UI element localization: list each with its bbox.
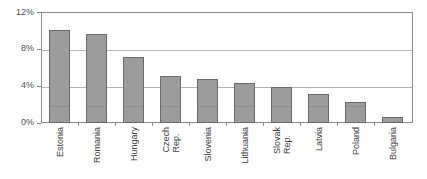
bar-shade-band — [235, 106, 254, 107]
x-label-slovak-rep: Slovak Rep. — [263, 127, 300, 179]
bar-slovenia — [197, 79, 218, 123]
x-label-romania: Romania — [78, 127, 115, 179]
bar-chart: 12% 8% 4% 0% — [0, 0, 427, 179]
bar-slovak-rep — [271, 87, 292, 123]
x-label-poland: Poland — [337, 127, 374, 179]
bar-shade-band — [161, 106, 180, 107]
bar-hungary — [123, 57, 144, 123]
y-axis: 12% 8% 4% 0% — [0, 0, 38, 179]
bars-layer — [41, 12, 413, 123]
x-label-text: Bulgaria — [388, 127, 398, 160]
x-label-text: Estonia — [55, 127, 65, 157]
bar-romania — [86, 34, 107, 123]
bar-shade-band — [50, 106, 69, 107]
x-tick — [300, 123, 301, 126]
x-tick — [189, 123, 190, 126]
x-tick — [115, 123, 116, 126]
x-label-czech-rep: Czech Rep. — [152, 127, 189, 179]
x-tick — [152, 123, 153, 126]
x-label-text: Czech — [161, 127, 171, 153]
x-label-text: Romania — [92, 127, 102, 163]
x-tick — [263, 123, 264, 126]
y-tick-label-4: 4% — [21, 81, 34, 90]
y-tick-label-0: 0% — [21, 118, 34, 127]
x-tick — [78, 123, 79, 126]
x-label-latvia: Latvia — [300, 127, 337, 179]
bar-shade-band — [272, 106, 291, 107]
bar-shade-band — [198, 106, 217, 107]
bar-latvia — [308, 94, 329, 123]
bar-shade-band — [346, 106, 365, 107]
x-tick — [374, 123, 375, 126]
x-axis-labels: Estonia Romania Hungary Czech Rep. Slove… — [41, 127, 413, 179]
bar-lithuania — [234, 83, 255, 123]
bar-shade-band — [87, 106, 106, 107]
x-label-text-line2: Rep. — [171, 127, 181, 153]
x-label-slovenia: Slovenia — [189, 127, 226, 179]
x-label-text: Hungary — [129, 127, 139, 161]
bar-czech-rep — [160, 76, 181, 123]
x-tick — [337, 123, 338, 126]
x-label-text: Slovak — [272, 127, 282, 154]
x-label-text: Latvia — [314, 127, 324, 151]
bar-estonia — [49, 30, 70, 123]
x-label-text: Slovenia — [203, 127, 213, 162]
x-label-lithuania: Lithuania — [226, 127, 263, 179]
y-tick-label-12: 12% — [16, 8, 34, 17]
y-tick-label-8: 8% — [21, 44, 34, 53]
x-tick — [226, 123, 227, 126]
bar-poland — [345, 102, 366, 123]
x-label-text: Lithuania — [240, 127, 250, 164]
x-label-bulgaria: Bulgaria — [374, 127, 411, 179]
bar-shade-band — [309, 106, 328, 107]
x-label-estonia: Estonia — [41, 127, 78, 179]
x-label-text: Poland — [351, 127, 361, 155]
x-label-hungary: Hungary — [115, 127, 152, 179]
bar-shade-band — [124, 106, 143, 107]
x-label-text-line2: Rep. — [282, 127, 292, 154]
